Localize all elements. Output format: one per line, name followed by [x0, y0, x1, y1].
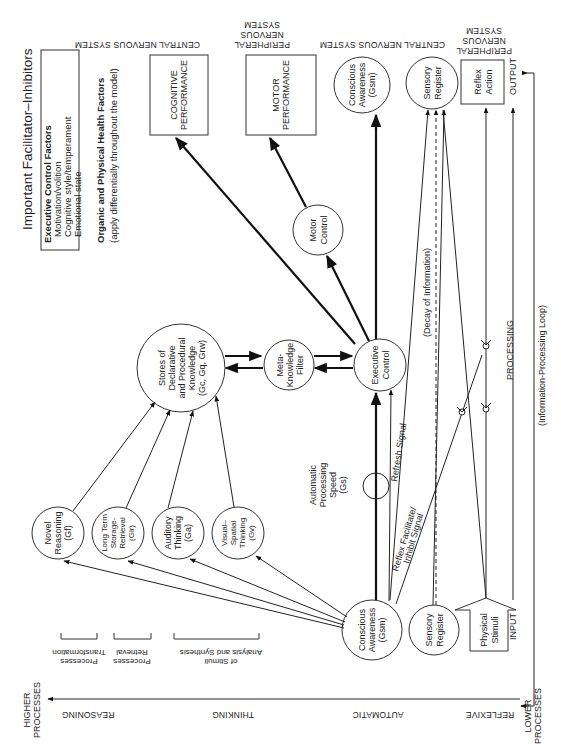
label-text: Register	[435, 613, 445, 647]
label-text: Reflex	[473, 69, 483, 95]
label-text: (Gv)	[247, 525, 256, 541]
edge-to-auditory	[190, 559, 345, 622]
label-text: Processing	[318, 463, 328, 508]
diagram-shape	[114, 633, 151, 639]
label-text: Knowledge	[285, 343, 295, 388]
edge-reflex-facilitate	[396, 355, 482, 604]
label-text: Retrieval	[118, 517, 127, 549]
edge-exec-to-motor-control	[327, 256, 369, 341]
label-text: PERFORMANCE	[281, 60, 291, 130]
label-text: Reasoning	[53, 511, 63, 554]
label-text: Thinking	[238, 518, 247, 548]
label-text: Declarative	[167, 345, 177, 390]
diagram-shape	[174, 633, 259, 639]
edge-visual-to-stores	[216, 396, 234, 507]
label-text: Analysis and Synthesis	[180, 648, 262, 657]
diagram-shape	[483, 406, 489, 412]
label-text: PROCESSES	[533, 688, 543, 744]
diagram-shape	[409, 605, 459, 655]
node-motor-control: Motor Control	[293, 205, 343, 255]
node-novel-reasoning: Novel Reasoning (Gf)	[32, 507, 84, 559]
diagram-shape	[354, 339, 406, 391]
axis-level-automatic: AUTOMATIC	[352, 710, 403, 720]
legend-exec-item: Emotional state	[72, 172, 83, 237]
diagram-shape	[483, 343, 489, 349]
label-text: Visual–	[220, 519, 229, 546]
label-text: NERVOUS	[240, 30, 283, 40]
edge-novel-to-stores	[73, 402, 155, 511]
label-text: of Stimuli	[204, 657, 237, 666]
label-text: Physical	[479, 613, 489, 647]
label-text: Thinking	[173, 516, 183, 550]
label-refresh-signal: Refresh Signal	[389, 422, 408, 482]
bracket-analysis: Analysis and Synthesis of Stimuli	[174, 633, 262, 666]
label-text: Stimuli	[490, 616, 500, 643]
label-text: (Gsm)	[377, 618, 387, 643]
label-text: Control	[319, 215, 329, 244]
label-text: (Gsm)	[367, 73, 377, 98]
label-text: and Procedural	[177, 337, 187, 398]
label-text: Auditory	[163, 516, 173, 550]
label-text: Filter	[295, 355, 305, 375]
node-reflex-action: Reflex Action	[461, 60, 504, 104]
bracket-retrieval: Retrieval Processes	[113, 633, 151, 666]
label-text: Retrieval	[116, 648, 148, 657]
legend-health-heading: Organic and Physical Health Factors	[95, 78, 106, 243]
bracket-transformation: Transformation Processes	[52, 633, 106, 666]
label-text: Spatial	[229, 521, 238, 546]
label-decay: (Decay of Information)	[422, 248, 432, 337]
label-text: (Gf)	[63, 525, 73, 541]
label-text: PERIPHERAL	[456, 46, 512, 56]
label-text: Speed	[328, 472, 338, 498]
label-automatic-processing-speed: Automatic Processing Speed (Gs)	[308, 463, 348, 508]
legend-health: Organic and Physical Health Factors (app…	[95, 68, 119, 243]
label-text: (Gs)	[338, 476, 348, 494]
process-level-axis: REASONING THINKING AUTOMATIC REFLEXIVE H…	[22, 682, 543, 744]
label-text: Motor	[308, 218, 318, 241]
edge-to-novel-reasoning	[64, 561, 344, 628]
legend-title: Important Facilitator–Inhibitors	[20, 48, 35, 230]
label-text: (Gc, Gq, Grw)	[197, 340, 207, 396]
label-text: MOTOR	[271, 78, 281, 112]
label-text: Executive	[370, 345, 380, 384]
label-text: Novel	[43, 521, 53, 544]
label-text: Sensory	[424, 613, 434, 647]
label-text: LOWER	[523, 699, 533, 733]
header-pns-reflex: PERIPHERAL NERVOUS SYSTEM	[456, 26, 512, 56]
label-text: Register	[433, 66, 443, 100]
valve-icon	[457, 407, 467, 415]
label-text: COGNITIVE	[169, 70, 179, 120]
label-input: INPUT	[508, 612, 518, 640]
label-text: Storage-	[109, 517, 118, 548]
diagram-shape	[293, 205, 343, 255]
node-meta-knowledge-filter: Meta- Knowledge Filter	[264, 340, 314, 390]
label-text: PERIPHERAL	[234, 40, 290, 50]
label-text: Conscious	[357, 608, 367, 651]
edge-sensory-bottom-to-top	[433, 110, 444, 605]
label-information-loop: (Information-Processing Loop)	[537, 305, 547, 426]
node-sensory-register-top: Sensory Register	[406, 57, 458, 109]
label-output: OUTPUT	[508, 58, 518, 96]
label-text: Automatic	[308, 464, 318, 505]
diagram-shape	[61, 633, 97, 639]
edge-longterm-to-stores	[126, 410, 170, 508]
legend: Important Facilitator–Inhibitors Executi…	[20, 48, 83, 250]
node-visual-spatial-thinking: Visual– Spatial Thinking (Gv)	[212, 507, 264, 559]
edge-information-loop	[521, 73, 534, 706]
label-text: HIGHER	[22, 692, 32, 728]
label-text: Processes	[113, 657, 150, 666]
label-text: Awareness	[357, 62, 367, 107]
edge-auditory-to-stores	[168, 411, 193, 508]
label-text: Long Term	[100, 514, 109, 552]
node-executive-control: Executive Control	[354, 339, 406, 391]
label-text: PERFORMANCE	[179, 60, 189, 130]
axis-lower-processes: LOWER PROCESSES	[523, 688, 543, 744]
label-text: SYSTEM	[244, 20, 280, 30]
node-conscious-awareness-bottom: Conscious Awareness (Gsm)	[342, 600, 402, 660]
label-text: Sensory	[422, 66, 432, 100]
label-text: (Ga)	[183, 524, 193, 542]
diagram-shape	[406, 57, 458, 109]
header-cns-top: CENTRAL NERVOUS SYSTEM	[75, 40, 200, 50]
label-text: Meta-	[275, 353, 285, 376]
node-motor-performance: MOTOR PERFORMANCE	[246, 55, 316, 135]
